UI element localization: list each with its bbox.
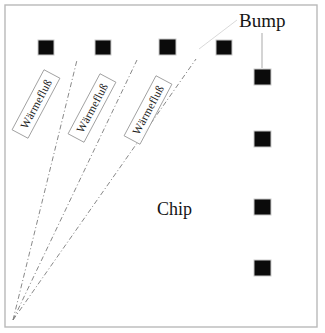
bump-square — [254, 131, 271, 147]
chip-label: Chip — [157, 199, 192, 219]
diagram-canvas: Wärmefluß Wärmefluß Wärmefluß Bump Chip — [0, 0, 325, 333]
heat-flow-label-2: Wärmefluß — [68, 74, 116, 142]
bump-square — [159, 39, 176, 55]
bump-label: Bump — [239, 10, 285, 31]
bumps-top-row — [38, 39, 232, 55]
bump-square — [38, 40, 54, 55]
bump-square — [95, 40, 111, 55]
bump-square — [254, 199, 271, 215]
heat-flow-label-1: Wärmefluß — [12, 70, 60, 138]
bump-square — [254, 69, 271, 85]
heat-flow-label-3: Wärmefluß — [124, 76, 172, 144]
bump-square — [254, 260, 271, 276]
bump-square — [216, 40, 232, 55]
heat-flow-diagram: Wärmefluß Wärmefluß Wärmefluß Bump Chip — [0, 0, 325, 333]
bumps-right-column — [254, 69, 271, 276]
